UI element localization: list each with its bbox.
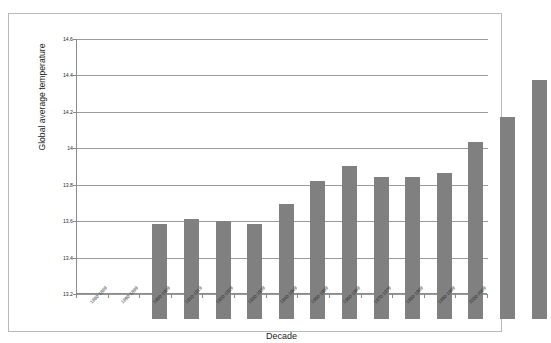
y-axis-tick-label: 13.6 [63, 218, 73, 224]
y-axis-tick-label: 13.4 [63, 255, 73, 261]
chart-frame: Global average temperature 13.213.413.61… [8, 13, 502, 332]
x-axis-title: Decade [76, 331, 487, 341]
y-axis-tick-label: 13.2 [63, 291, 73, 297]
y-axis-tick-label: 14.4 [63, 72, 73, 78]
y-axis-tick-label: 13.8 [63, 182, 73, 188]
y-axis-tick [73, 39, 77, 40]
y-axis-tick [73, 258, 77, 259]
y-axis-tick-label: 14.6 [63, 36, 73, 42]
y-axis-tick [73, 148, 77, 149]
y-axis-tick [73, 112, 77, 113]
y-axis-tick-labels: 13.213.413.613.81414.214.414.6 [48, 39, 73, 294]
bar [500, 117, 515, 319]
y-axis-tick [73, 75, 77, 76]
x-axis-tick [487, 294, 488, 298]
y-axis-title: Global average temperature [37, 17, 47, 177]
plot-area [76, 39, 487, 294]
x-axis-tick-labels: 1880-18891890-18991900-19091910-19191920… [76, 298, 487, 332]
bar [532, 80, 547, 319]
y-axis-tick [73, 221, 77, 222]
gridline [77, 39, 488, 40]
y-axis-tick [73, 185, 77, 186]
y-axis-tick-label: 14.2 [63, 109, 73, 115]
bars-layer [144, 64, 551, 319]
